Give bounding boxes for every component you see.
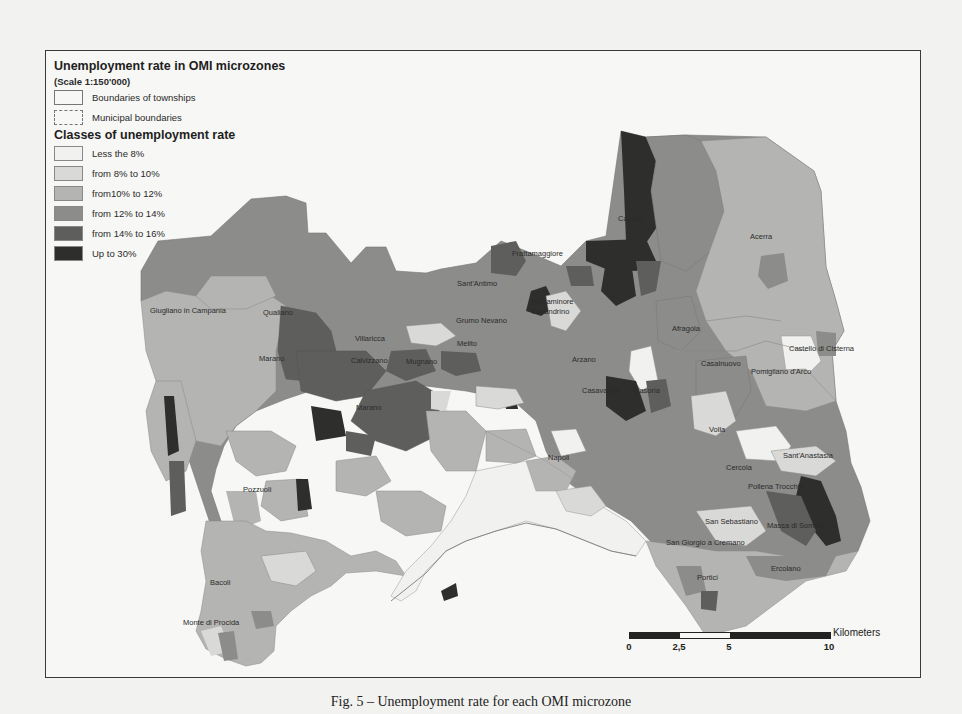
scale-tick: 10 (824, 641, 835, 652)
scale-bar-graphic (629, 632, 831, 639)
place-label: Massa di Somma (767, 521, 825, 530)
place-label: Caivano (618, 214, 646, 223)
place-label: Arzano (572, 355, 596, 364)
place-label: Cercola (726, 463, 752, 472)
scale-bar: Kilometers 0 2,5 5 10 (629, 632, 831, 639)
place-label: Casandrino (531, 307, 569, 316)
legend-class-item: Up to 30% (54, 243, 285, 263)
place-label: Volla (709, 425, 725, 434)
place-label: Portici (697, 573, 718, 582)
color-swatch-icon (54, 166, 83, 181)
place-label: Monte di Procida (183, 618, 239, 627)
place-label: Casoria (634, 386, 660, 395)
place-label: Marano (356, 403, 381, 412)
place-label: Pollena Trocchia (748, 482, 803, 491)
legend-class-item: from10% to 12% (54, 183, 285, 203)
color-swatch-icon (54, 246, 83, 261)
color-swatch-icon (54, 146, 83, 161)
figure-caption: Fig. 5 – Unemployment rate for each OMI … (0, 694, 962, 710)
scale-bar-white-segment (680, 633, 730, 638)
place-label: Marano (259, 354, 284, 363)
scale-tick: 5 (726, 641, 731, 652)
place-label: Casavatore (582, 386, 620, 395)
legend-label: from10% to 12% (92, 188, 162, 199)
place-label: Grumo Nevano (456, 316, 507, 325)
place-label: Sant'Anastasia (783, 451, 833, 460)
place-label: Mugnano (406, 357, 437, 366)
legend-label: Municipal boundaries (92, 112, 182, 123)
place-label: Frattaminore (531, 297, 574, 306)
scale-bar-unit: Kilometers (833, 627, 880, 638)
place-label: Bacoli (210, 578, 230, 587)
color-swatch-icon (54, 186, 83, 201)
legend-label: from 14% to 16% (92, 228, 165, 239)
legend-label: Boundaries of townships (92, 92, 196, 103)
map-title: Unemployment rate in OMI microzones (54, 59, 285, 73)
map-frame: Unemployment rate in OMI microzones (Sca… (45, 50, 921, 678)
legend-label: from 12% to 14% (92, 208, 165, 219)
place-label: San Sebastiano (705, 517, 758, 526)
place-label: Acerra (750, 232, 772, 241)
legend-class-item: from 12% to 14% (54, 203, 285, 223)
place-label: Calvizzano (351, 356, 388, 365)
solid-line-swatch-icon (54, 90, 83, 105)
place-label: Napoli (548, 453, 569, 462)
place-label: Giugliano in Campania (150, 306, 226, 315)
place-label: San Giorgio a Cremano (666, 538, 745, 547)
legend-class-item: from 14% to 16% (54, 223, 285, 243)
place-label: Qualiano (263, 308, 293, 317)
place-label: Afragola (672, 324, 700, 333)
color-swatch-icon (54, 206, 83, 221)
place-label: Castello di Cisterna (789, 344, 854, 353)
color-swatch-icon (54, 226, 83, 241)
place-label: Pozzuoli (243, 485, 271, 494)
legend-item-municipal-boundaries: Municipal boundaries (54, 107, 285, 127)
place-label: Melito (457, 339, 477, 348)
legend-label: Less the 8% (92, 148, 144, 159)
map-legend: Unemployment rate in OMI microzones (Sca… (54, 59, 285, 263)
legend-classes-title: Classes of unemployment rate (54, 128, 285, 142)
legend-class-item: from 8% to 10% (54, 163, 285, 183)
place-label: Pomigliano d'Arco (751, 367, 811, 376)
map-scale-text: (Scale 1:150'000) (54, 76, 285, 87)
legend-label: Up to 30% (92, 248, 136, 259)
legend-item-township-boundaries: Boundaries of townships (54, 87, 285, 107)
place-label: Villaricca (355, 334, 385, 343)
place-label: Ercolano (771, 564, 801, 573)
place-label: Frattamaggiore (512, 249, 563, 258)
scale-tick: 0 (626, 641, 631, 652)
legend-label: from 8% to 10% (92, 168, 160, 179)
place-label: Sant'Antimo (457, 279, 497, 288)
scale-tick: 2,5 (672, 641, 685, 652)
place-label: Casalnuovo (701, 359, 741, 368)
legend-class-item: Less the 8% (54, 143, 285, 163)
dashed-line-swatch-icon (54, 110, 83, 125)
